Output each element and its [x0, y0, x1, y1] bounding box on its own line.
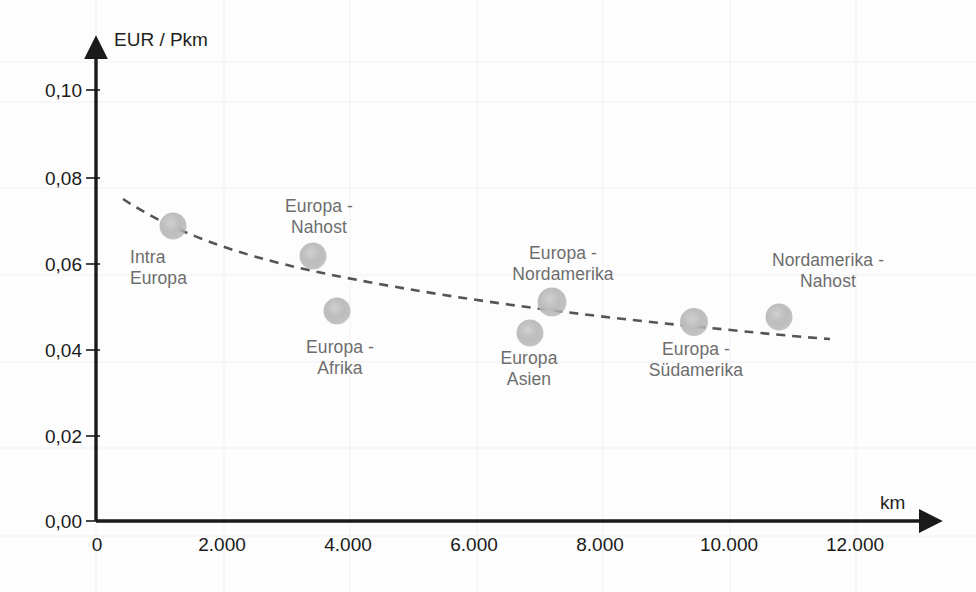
- point-label-europa-nordamerika: Europa - Nordamerika: [512, 243, 613, 286]
- point-label-europa-asien: Europa Asien: [500, 348, 557, 391]
- marker-europa-suedamerika: [680, 308, 708, 336]
- x-tick-label-12000: 12.000: [826, 534, 884, 556]
- x-axis-title: km: [880, 492, 905, 514]
- y-tick-label-006: 0,06: [20, 254, 82, 276]
- y-tick-label-000: 0,00: [20, 511, 82, 533]
- x-tick-label-0: 0: [92, 534, 103, 556]
- y-tick-label-004: 0,04: [20, 340, 82, 362]
- marker-europa-nahost: [300, 243, 327, 270]
- x-tick-label-8000: 8.000: [576, 534, 624, 556]
- marker-europa-afrika: [324, 298, 351, 325]
- x-tick-label-4000: 4.000: [324, 534, 372, 556]
- marker-nordamerika-nahost: [766, 304, 793, 331]
- marker-europa-asien: [517, 320, 544, 347]
- marker-intra-europa: [160, 213, 187, 240]
- data-markers: [160, 213, 793, 347]
- y-tick-label-008: 0,08: [20, 168, 82, 190]
- y-tick-label-002: 0,02: [20, 426, 82, 448]
- y-tick-label-010: 0,10: [20, 80, 82, 102]
- x-tick-label-2000: 2.000: [198, 534, 246, 556]
- x-tick-label-10000: 10.000: [700, 534, 758, 556]
- marker-europa-nordamerika: [538, 288, 567, 317]
- point-label-intra-europa: Intra Europa: [130, 247, 187, 290]
- y-axis-title: EUR / Pkm: [114, 29, 208, 51]
- point-label-europa-nahost: Europa - Nahost: [285, 196, 353, 239]
- y-axis-ticks: [86, 90, 100, 521]
- chart-plot-area: [0, 0, 976, 592]
- chart-figure: EUR / Pkm km 0,10 0,08 0,06 0,04 0,02 0,…: [0, 0, 976, 592]
- point-label-europa-suedamerika: Europa - Südamerika: [649, 339, 743, 382]
- point-label-europa-afrika: Europa - Afrika: [306, 337, 374, 380]
- point-label-nordamerika-nahost: Nordamerika - Nahost: [772, 250, 884, 293]
- x-tick-label-6000: 6.000: [450, 534, 498, 556]
- trendline: [123, 199, 830, 339]
